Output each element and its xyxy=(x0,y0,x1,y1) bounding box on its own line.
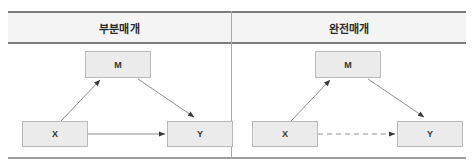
node-m-full: M xyxy=(315,51,381,78)
node-y-partial: Y xyxy=(167,121,233,147)
edge-x-to-m xyxy=(61,80,100,121)
diagram-full-mediation: M X Y xyxy=(232,44,466,157)
node-x-label: X xyxy=(282,129,288,139)
edge-m-to-y xyxy=(368,79,424,117)
table-rule-bottom xyxy=(8,157,466,159)
node-m-partial: M xyxy=(85,51,151,78)
node-x-partial: X xyxy=(22,121,88,147)
node-m-label: M xyxy=(344,60,352,70)
node-y-full: Y xyxy=(397,121,463,147)
edge-x-to-m xyxy=(291,80,330,121)
column-header-full-mediation: 완전매개 xyxy=(232,13,466,42)
diagram-partial-mediation: M X Y xyxy=(8,44,231,157)
node-x-full: X xyxy=(252,121,318,147)
edge-m-to-y xyxy=(138,79,194,117)
node-y-label: Y xyxy=(427,129,433,139)
mediation-comparison-figure: 부분매개 완전매개 M X Y xyxy=(8,11,466,159)
node-x-label: X xyxy=(52,129,58,139)
node-y-label: Y xyxy=(197,129,203,139)
node-m-label: M xyxy=(114,60,122,70)
column-header-partial-mediation: 부분매개 xyxy=(8,13,231,42)
